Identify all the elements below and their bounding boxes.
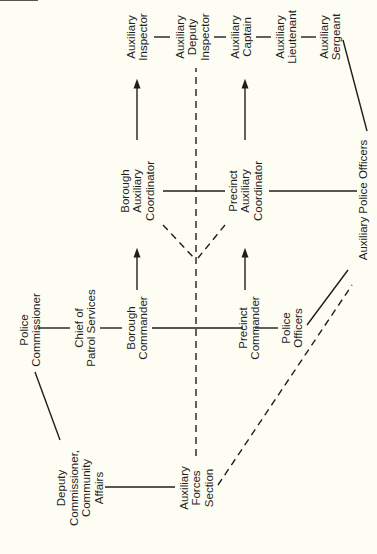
node-chief-patrol: Chief ofPatrol Services — [73, 289, 98, 367]
node-aux-sergeant: AuxiliarySergeant — [318, 13, 343, 60]
node-police-commissioner: PoliceCommissioner — [18, 293, 43, 367]
org-chart: PoliceCommissionerChief ofPatrol Service… — [0, 0, 377, 554]
node-police-officers: PoliceOfficers — [280, 308, 305, 348]
node-aux-captain: AuxiliaryCaptain — [229, 15, 254, 59]
node-aux-forces-section: AuxiliaryForcesSection — [178, 466, 215, 510]
node-aux-police-officers: Auxiliary Police Officers — [357, 139, 369, 260]
node-precinct-commander: PrecinctCommander — [237, 296, 262, 359]
node-aux-inspector: AuxiliaryInspector — [125, 13, 150, 60]
node-borough-commander: BoroughCommander — [125, 296, 150, 359]
dashed-borough-coord-v — [163, 225, 194, 258]
dashed-precinct-coord-v — [198, 225, 225, 258]
labels: PoliceCommissionerChief ofPatrol Service… — [18, 9, 369, 526]
node-deputy-commissioner: DeputyCommissioner,CommunityAffairs — [55, 450, 105, 526]
node-borough-aux-coord: BoroughAuxiliaryCoordinator — [119, 161, 156, 221]
node-precinct-aux-coord: PrecinctAuxiliaryCoordinator — [227, 161, 264, 221]
line-officers-aux-officers — [307, 270, 348, 325]
node-aux-deputy-inspector: AuxiliaryDeputyInspector — [174, 13, 211, 60]
line-commissioner-deputy — [35, 372, 60, 440]
node-aux-lieutenant: AuxiliaryLieutenant — [274, 9, 299, 64]
connectors — [0, 0, 367, 487]
line-sergeant-aux-officers — [343, 40, 367, 131]
